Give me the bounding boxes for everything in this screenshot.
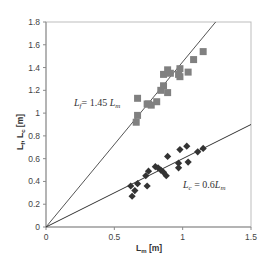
x-tick-label: 1 xyxy=(180,232,185,242)
square-marker xyxy=(190,56,197,63)
square-marker xyxy=(167,70,174,77)
diamond-marker xyxy=(176,146,183,153)
diamond-marker xyxy=(134,180,141,187)
y-tick-label: 1.8 xyxy=(28,17,40,27)
y-tick-label: 0 xyxy=(35,222,40,232)
y-tick-label: 1 xyxy=(35,108,40,118)
x-tick-label: 1.5 xyxy=(245,232,257,242)
x-axis-ticks: 00.511.5 xyxy=(44,227,258,242)
scatter-chart: 00.20.40.60.811.21.41.61.8 00.511.5 Lf= … xyxy=(0,0,270,275)
series-diamond xyxy=(127,143,207,200)
y-tick-label: 0.8 xyxy=(28,131,40,141)
square-marker xyxy=(176,65,183,72)
plot-area-border xyxy=(46,22,251,227)
x-axis-label: Lm [m] xyxy=(136,243,162,254)
diamond-marker xyxy=(144,182,151,189)
square-marker xyxy=(200,48,207,55)
y-tick-label: 0.6 xyxy=(28,154,40,164)
x-tick-label: 0 xyxy=(44,232,49,242)
square-marker xyxy=(133,119,140,126)
square-marker xyxy=(185,69,192,76)
y-axis-ticks: 00.20.40.60.811.21.41.61.8 xyxy=(28,17,46,232)
diamond-marker xyxy=(183,143,190,150)
square-marker xyxy=(153,98,160,105)
fit-lines xyxy=(46,22,251,227)
square-marker xyxy=(160,82,167,89)
y-tick-label: 1.6 xyxy=(28,40,40,50)
annotation-lc: Lc = 0.6Lm xyxy=(182,179,225,192)
y-tick-label: 0.4 xyxy=(28,176,40,186)
series-square xyxy=(133,48,207,126)
square-marker xyxy=(176,73,183,80)
diamond-marker xyxy=(175,164,182,171)
diamond-marker xyxy=(185,158,192,165)
diamond-marker xyxy=(194,148,201,155)
y-tick-label: 0.2 xyxy=(28,199,40,209)
data-series xyxy=(127,48,207,200)
x-tick-label: 0.5 xyxy=(108,232,120,242)
y-axis-label: Lf, Lc [m] xyxy=(15,114,26,150)
square-marker xyxy=(164,89,171,96)
diamond-marker xyxy=(200,145,207,152)
square-marker xyxy=(134,95,141,102)
y-tick-label: 1.2 xyxy=(28,85,40,95)
y-tick-label: 1.4 xyxy=(28,63,40,73)
diamond-marker xyxy=(164,153,171,160)
plot-frame xyxy=(46,22,251,227)
annotation-lf: Lf= 1.45 Lm xyxy=(73,97,120,110)
square-marker xyxy=(134,112,141,119)
